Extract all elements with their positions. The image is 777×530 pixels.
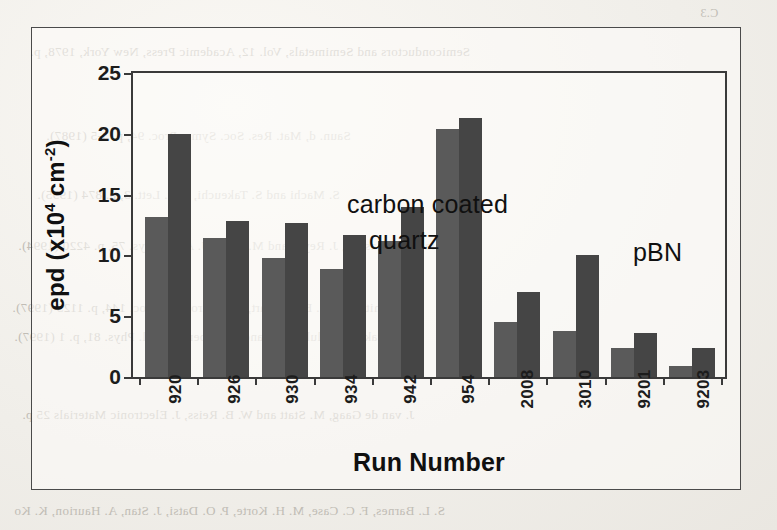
bar-light [320, 269, 343, 377]
y-axis-tick-label: 25 [79, 61, 121, 85]
annotation-carbon-coated: carbon coated [347, 190, 508, 219]
y-axis-tick [124, 134, 133, 136]
x-axis-tick [372, 377, 374, 385]
bar-group [605, 73, 663, 377]
x-axis-tick-label: 954 [459, 374, 479, 403]
y-axis-tick [124, 73, 133, 75]
annotation-quartz: quartz [369, 226, 440, 255]
x-axis-tick-label-cell: 954 [430, 387, 489, 449]
bar-light [262, 258, 285, 377]
y-axis-tick-label: 5 [79, 304, 121, 328]
y-axis-title-exponent-2: -2 [42, 148, 58, 162]
bar-group [255, 73, 313, 377]
y-axis-tick [124, 316, 133, 318]
x-axis-tick-label: 926 [225, 374, 245, 403]
x-axis-tick [663, 377, 665, 385]
bar-group [372, 73, 430, 377]
bar-light [145, 217, 168, 378]
x-axis-tick [197, 377, 199, 385]
x-axis-tick [605, 377, 607, 385]
x-axis-tick-label: 9201 [635, 369, 655, 408]
x-axis-tick-label-cell: 9201 [606, 387, 665, 449]
bar-light [611, 348, 634, 377]
x-axis-tick-label-cell: 926 [196, 387, 255, 449]
bar-group [546, 73, 604, 377]
y-axis-title: epd (x104 cm-2) [36, 71, 76, 379]
bar-series-container [133, 73, 725, 377]
y-axis-tick [124, 377, 133, 379]
bar-light [553, 331, 576, 377]
x-axis-tick-label: 920 [166, 374, 186, 403]
x-axis-tick-label: 3010 [576, 369, 596, 408]
bar-light [203, 238, 226, 377]
bar-dark [226, 221, 249, 377]
bar-group [139, 73, 197, 377]
x-axis-tick-label-cell: 930 [254, 387, 313, 449]
x-axis-tick-label-cell: 2008 [489, 387, 548, 449]
x-axis-tick-label: 9203 [694, 369, 714, 408]
bar-light [494, 322, 517, 377]
x-axis-tick [314, 377, 316, 385]
y-axis-title-suffix: ) [42, 139, 69, 147]
bar-group [488, 73, 546, 377]
x-axis-tick-label: 942 [401, 374, 421, 403]
x-axis-tick [488, 377, 490, 385]
y-axis-tick [124, 255, 133, 257]
bar-light [669, 366, 692, 377]
x-axis-tick [546, 377, 548, 385]
x-axis-tick-label: 930 [283, 374, 303, 403]
bar-group [663, 73, 721, 377]
bar-dark [576, 255, 599, 377]
plot-area: 0510152025 carbon coated quartz pBN [131, 71, 727, 379]
annotation-pbn: pBN [633, 238, 682, 267]
y-axis-tick-label: 20 [79, 122, 121, 146]
y-axis-tick-label: 15 [79, 183, 121, 207]
bar-dark [343, 235, 366, 377]
x-axis-tick [139, 377, 141, 385]
y-axis-tick-label: 0 [79, 365, 121, 389]
bar-chart: epd (x104 cm-2) 0510152025 carbon coated… [32, 28, 742, 491]
bar-light [378, 241, 401, 377]
bar-dark [517, 292, 540, 377]
x-axis-tick-label: 2008 [518, 369, 538, 408]
x-axis-tick [721, 377, 723, 385]
bar-dark [168, 134, 191, 377]
y-axis-tick-label: 10 [79, 243, 121, 267]
bar-group [430, 73, 488, 377]
x-axis-tick-label-cell: 9203 [664, 387, 723, 449]
bar-group [197, 73, 255, 377]
x-axis-tick-label-cell: 934 [313, 387, 372, 449]
bar-dark [459, 118, 482, 377]
y-axis-title-prefix: epd (x10 [42, 212, 69, 311]
x-axis-tick [255, 377, 257, 385]
x-axis-tick-label: 934 [342, 374, 362, 403]
x-axis-tick-label-cell: 3010 [547, 387, 606, 449]
x-axis-tick-label-cell: 942 [371, 387, 430, 449]
x-axis-title: Run Number [131, 448, 727, 477]
y-axis-tick [124, 195, 133, 197]
x-axis-tick-label-cell: 920 [137, 387, 196, 449]
bar-dark [285, 223, 308, 377]
figure-frame: epd (x104 cm-2) 0510152025 carbon coated… [31, 27, 741, 490]
y-axis-title-mid: cm [42, 161, 69, 203]
x-axis-tick [430, 377, 432, 385]
bar-group [314, 73, 372, 377]
x-axis-tick-labels: 9209269309349429542008301092019203 [131, 387, 727, 449]
y-axis-title-exponent-1: 4 [42, 203, 58, 211]
